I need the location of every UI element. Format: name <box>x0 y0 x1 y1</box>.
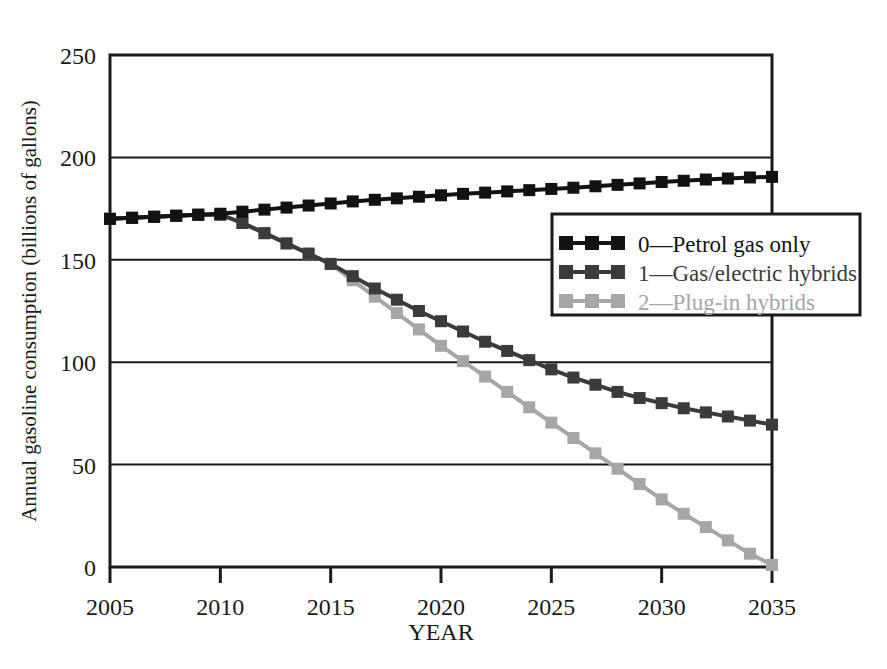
data-point-plugin-2034 <box>744 548 756 560</box>
data-point-hybrid-2028 <box>612 386 624 398</box>
data-point-petrol-2019 <box>413 191 425 203</box>
legend-swatch-plugin-marker-1 <box>585 294 599 308</box>
data-point-petrol-2029 <box>634 177 646 189</box>
data-point-hybrid-2031 <box>678 402 690 414</box>
data-point-petrol-2035 <box>766 171 778 183</box>
data-point-petrol-2021 <box>457 188 469 200</box>
data-point-hybrid-2022 <box>479 336 491 348</box>
x-tick-label-2025: 2025 <box>527 594 575 620</box>
data-point-hybrid-2017 <box>369 282 381 294</box>
data-point-hybrid-2034 <box>744 415 756 427</box>
data-point-hybrid-2030 <box>656 397 668 409</box>
data-point-plugin-2035 <box>766 559 778 571</box>
data-point-petrol-2020 <box>435 189 447 201</box>
data-point-petrol-2024 <box>523 184 535 196</box>
data-point-hybrid-2020 <box>435 315 447 327</box>
data-point-petrol-2032 <box>700 174 712 186</box>
data-point-plugin-2029 <box>634 478 646 490</box>
chart-legend: 0—Petrol gas only1—Gas/electric hybrids2… <box>552 214 860 315</box>
data-point-plugin-2027 <box>589 447 601 459</box>
data-point-plugin-2031 <box>678 508 690 520</box>
chart-background <box>0 0 887 669</box>
data-point-plugin-2022 <box>479 371 491 383</box>
data-point-hybrid-2032 <box>700 406 712 418</box>
data-point-hybrid-2026 <box>567 372 579 384</box>
data-point-hybrid-2018 <box>391 294 403 306</box>
y-tick-label-150: 150 <box>60 248 96 274</box>
data-point-petrol-2011 <box>236 206 248 218</box>
x-tick-label-2020: 2020 <box>417 594 465 620</box>
x-tick-label-2010: 2010 <box>196 594 244 620</box>
data-point-hybrid-2015 <box>325 258 337 270</box>
data-point-hybrid-2029 <box>634 392 646 404</box>
data-point-petrol-2023 <box>501 185 513 197</box>
data-point-hybrid-2011 <box>236 217 248 229</box>
data-point-hybrid-2021 <box>457 325 469 337</box>
data-point-plugin-2019 <box>413 323 425 335</box>
legend-label-1: 1—Gas/electric hybrids <box>638 261 857 286</box>
y-tick-label-50: 50 <box>72 453 96 479</box>
data-point-plugin-2021 <box>457 355 469 367</box>
legend-label-0: 0—Petrol gas only <box>638 232 811 257</box>
legend-swatch-hybrid-marker-2 <box>611 265 625 279</box>
y-axis-title: Annual gasoline consumption (billions of… <box>17 100 41 522</box>
data-point-hybrid-2014 <box>303 248 315 260</box>
data-point-plugin-2032 <box>700 521 712 533</box>
data-point-hybrid-2025 <box>545 363 557 375</box>
data-point-petrol-2027 <box>589 180 601 192</box>
data-point-petrol-2014 <box>303 200 315 212</box>
data-point-petrol-2015 <box>325 197 337 209</box>
legend-swatch-hybrid-marker-0 <box>559 265 573 279</box>
data-point-petrol-2026 <box>567 182 579 194</box>
data-point-plugin-2033 <box>722 534 734 546</box>
x-tick-label-2030: 2030 <box>638 594 686 620</box>
x-tick-label-2015: 2015 <box>307 594 355 620</box>
legend-swatch-hybrid-marker-1 <box>585 265 599 279</box>
data-point-petrol-2007 <box>148 211 160 223</box>
y-tick-label-100: 100 <box>60 350 96 376</box>
data-point-hybrid-2023 <box>501 345 513 357</box>
data-point-petrol-2010 <box>214 208 226 220</box>
data-point-petrol-2034 <box>744 171 756 183</box>
legend-swatch-petrol-marker-2 <box>611 236 625 250</box>
data-point-petrol-2025 <box>545 183 557 195</box>
data-point-hybrid-2024 <box>523 354 535 366</box>
data-point-petrol-2017 <box>369 194 381 206</box>
data-point-plugin-2028 <box>612 463 624 475</box>
data-point-petrol-2033 <box>722 172 734 184</box>
data-point-petrol-2009 <box>192 209 204 221</box>
y-tick-label-200: 200 <box>60 145 96 171</box>
data-point-plugin-2030 <box>656 493 668 505</box>
data-point-plugin-2024 <box>523 401 535 413</box>
x-axis-title: YEAR <box>408 619 473 645</box>
data-point-hybrid-2013 <box>281 237 293 249</box>
data-point-hybrid-2033 <box>722 410 734 422</box>
data-point-petrol-2012 <box>258 204 270 216</box>
data-point-plugin-2025 <box>545 417 557 429</box>
data-point-plugin-2026 <box>567 432 579 444</box>
data-point-hybrid-2027 <box>589 379 601 391</box>
chart-figure: 050100150200250 200520102015202020252030… <box>0 0 887 669</box>
data-point-petrol-2008 <box>170 210 182 222</box>
data-point-plugin-2020 <box>435 340 447 352</box>
x-tick-label-2005: 2005 <box>86 594 134 620</box>
data-point-petrol-2030 <box>656 176 668 188</box>
chart-canvas: 050100150200250 200520102015202020252030… <box>0 0 887 669</box>
data-point-petrol-2028 <box>612 179 624 191</box>
data-point-plugin-2023 <box>501 386 513 398</box>
y-tick-label-250: 250 <box>60 43 96 69</box>
data-point-hybrid-2019 <box>413 305 425 317</box>
data-point-petrol-2006 <box>126 212 138 224</box>
data-point-hybrid-2012 <box>258 227 270 239</box>
legend-swatch-plugin-marker-0 <box>559 294 573 308</box>
data-point-petrol-2031 <box>678 175 690 187</box>
legend-swatch-petrol-marker-0 <box>559 236 573 250</box>
y-tick-label-0: 0 <box>84 555 96 581</box>
legend-swatch-petrol-marker-1 <box>585 236 599 250</box>
data-point-petrol-2018 <box>391 192 403 204</box>
data-point-petrol-2005 <box>104 213 116 225</box>
legend-label-2: 2—Plug-in hybrids <box>638 290 815 315</box>
data-point-hybrid-2035 <box>766 419 778 431</box>
data-point-petrol-2013 <box>281 202 293 214</box>
data-point-petrol-2022 <box>479 187 491 199</box>
